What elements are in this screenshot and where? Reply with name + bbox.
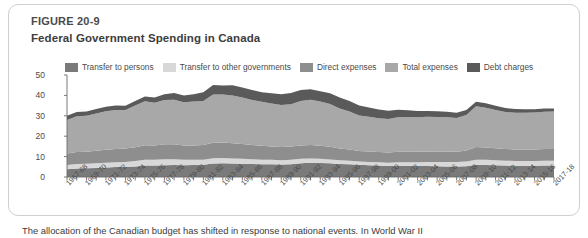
- legend-label: Transfer to persons: [82, 62, 154, 72]
- legend-item: Debt charges: [467, 62, 533, 72]
- figure-caption: The allocation of the Canadian budget ha…: [22, 224, 574, 237]
- legend-swatch-icon: [467, 63, 480, 72]
- legend-label: Direct expenses: [317, 62, 377, 72]
- legend-item: Transfer to other governments: [163, 62, 291, 72]
- figure-title: Federal Government Spending in Canada: [31, 32, 260, 44]
- legend-item: Transfer to persons: [65, 62, 154, 72]
- legend-label: Total expenses: [402, 62, 457, 72]
- legend-swatch-icon: [163, 63, 176, 72]
- legend-label: Debt charges: [484, 62, 533, 72]
- legend-swatch-icon: [65, 63, 78, 72]
- figure-card: FIGURE 20-9 Federal Government Spending …: [8, 4, 580, 216]
- legend-item: Total expenses: [385, 62, 457, 72]
- legend-item: Direct expenses: [300, 62, 377, 72]
- legend-label: Transfer to other governments: [180, 62, 291, 72]
- chart-legend: Transfer to personsTransfer to other gov…: [65, 60, 575, 74]
- figure-number: FIGURE 20-9: [31, 15, 100, 27]
- legend-swatch-icon: [385, 63, 398, 72]
- legend-swatch-icon: [300, 63, 313, 72]
